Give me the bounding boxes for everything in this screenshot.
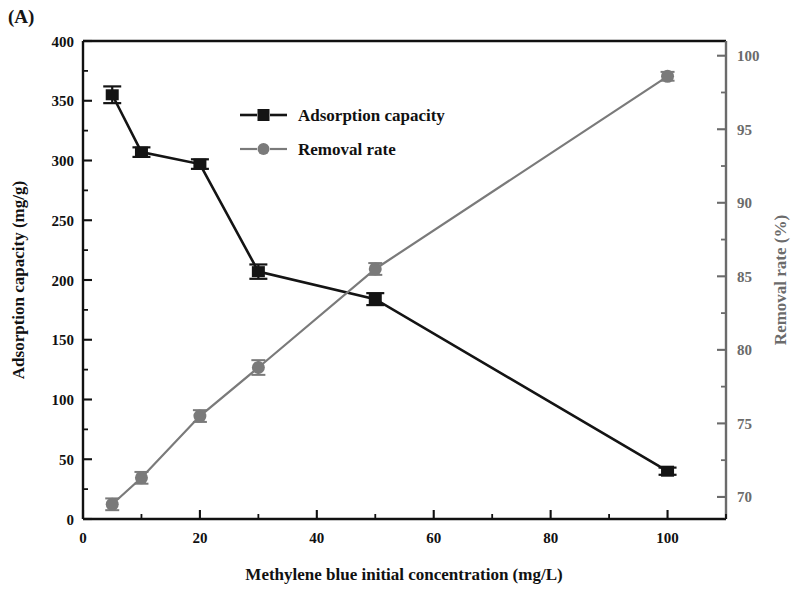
legend-label: Adsorption capacity [298,106,445,125]
chart-canvas: 050100150200250300350400 707580859095100… [0,0,797,592]
y-tick-label-left: 50 [59,452,74,468]
y-tick-label-left: 150 [52,332,75,348]
y-axis-title-left: Adsorption capacity (mg/g) [9,181,28,379]
legend-label: Removal rate [298,140,396,159]
x-axis-title: Methylene blue initial concentration (mg… [245,565,562,584]
marker-square [369,294,382,305]
y-tick-label-right: 85 [737,269,752,285]
marker-circle [252,361,265,374]
y-tick-label-right: 95 [737,122,752,138]
legend-item: Removal rate [240,140,396,159]
y-tick-label-left: 300 [52,153,75,169]
y-tick-label-left: 400 [52,34,75,50]
marker-circle [193,410,206,423]
x-tick-label: 0 [79,530,87,546]
chart-legend: Adsorption capacityRemoval rate [240,106,445,159]
marker-circle [369,262,382,275]
x-tick-label: 100 [656,530,679,546]
y-axis-ticks-right: 707580859095100 [717,48,760,505]
x-axis-ticks: 020406080100 [79,510,726,546]
y-tick-label-right: 80 [737,342,752,358]
data-point [249,264,267,278]
x-tick-label: 80 [543,530,558,546]
data-series-layer [103,70,676,511]
marker-circle [106,498,119,511]
marker-square [252,266,265,277]
y-tick-label-right: 70 [737,489,752,505]
figure-panel-a: (A) 050100150200250300350400 70758085909… [0,0,797,592]
y-tick-label-left: 350 [52,93,75,109]
x-tick-label: 60 [426,530,441,546]
marker-circle [661,70,674,83]
data-point [103,86,121,103]
y-tick-label-left: 200 [52,273,75,289]
y-tick-label-right: 75 [737,416,752,432]
data-point [661,70,675,83]
x-tick-label: 40 [309,530,324,546]
data-point [366,293,384,305]
y-axis-title-right: Removal rate (%) [771,215,790,345]
x-tick-label: 20 [192,530,207,546]
marker-square [193,159,206,170]
marker-square [106,89,119,100]
legend-marker-square [258,109,270,121]
y-tick-label-left: 100 [52,392,75,408]
data-point [191,159,209,170]
legend-item: Adsorption capacity [240,106,445,125]
y-tick-label-left: 250 [52,213,75,229]
panel-label: (A) [8,6,34,28]
y-tick-label-right: 100 [737,48,760,64]
legend-marker-circle [258,143,270,155]
y-tick-label-right: 90 [737,195,752,211]
marker-square [135,147,148,158]
data-point [659,466,677,477]
y-tick-label-left: 0 [67,512,75,528]
data-point [132,147,150,158]
marker-circle [135,471,148,484]
y-axis-ticks-left: 050100150200250300350400 [52,34,93,528]
marker-square [661,466,674,477]
